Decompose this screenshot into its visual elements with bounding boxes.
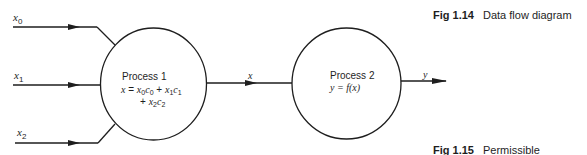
intermediate-x-label: x: [247, 70, 253, 81]
output-y-flow: y: [401, 69, 447, 84]
output-y-label: y: [422, 69, 428, 80]
process-1-equation-line-2: + x2c2: [140, 96, 165, 108]
process-1-title: Process 1: [122, 71, 167, 82]
process-1-equation-line-1: x = x0c0 + x1c1: [120, 84, 182, 96]
process-2-title: Process 2: [330, 70, 375, 81]
caption-fig-number: Fig 1.15: [433, 144, 474, 155]
input-x2-flow: x2: [15, 124, 115, 146]
arrowhead-icon: [68, 140, 80, 146]
input-x1-flow: x1: [13, 69, 101, 88]
process-2-node: Process 2 y = f(x): [292, 28, 401, 139]
input-x0-flow: x0: [12, 11, 115, 45]
arrowhead-icon: [68, 82, 80, 88]
caption-fig-number: Fig 1.14: [433, 9, 475, 21]
data-flow-diagram: x0 x1 x2 Process 1 x = x0c0 + x1c1 + x2c…: [0, 0, 587, 155]
intermediate-x-flow: x: [206, 70, 292, 86]
caption-text: Permissible: [483, 144, 540, 155]
input-x2-label: x2: [16, 126, 27, 141]
arrowhead-icon: [68, 24, 80, 30]
caption-text: Data flow diagram: [483, 9, 572, 21]
process-1-node: Process 1 x = x0c0 + x1c1 + x2c2: [101, 28, 207, 140]
arrowhead-icon: [432, 78, 447, 84]
figure-caption-1-14: Fig 1.14 Data flow diagram: [433, 9, 572, 21]
figure-caption-1-15: Fig 1.15 Permissible: [433, 144, 540, 155]
input-x1-label: x1: [13, 69, 24, 84]
process-2-equation: y = f(x): [329, 82, 361, 94]
input-x0-label: x0: [12, 11, 23, 26]
